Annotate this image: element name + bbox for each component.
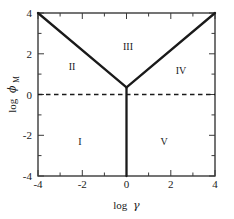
region-label-v: V	[160, 136, 168, 147]
y-axis-title-prefix: log	[6, 98, 18, 113]
region-label-ii: II	[69, 61, 76, 72]
x-tick-label-0: 0	[124, 178, 130, 190]
region-label-i: I	[78, 136, 81, 147]
y-tick-label-0: 0	[27, 89, 33, 101]
svg-text:log γ: log γ	[113, 199, 140, 212]
x-tick-label-4: 4	[212, 178, 218, 190]
x-tick-label-neg4: -4	[33, 178, 43, 190]
y-tick-label-neg4: -4	[23, 170, 33, 182]
y-axis-title-symbol: ϕ	[6, 85, 19, 93]
x-axis-title: log γ	[113, 199, 140, 212]
y-tick-label-2: 2	[27, 48, 33, 60]
y-axis-title: log ϕ M	[6, 76, 21, 113]
x-tick-label-2: 2	[168, 178, 174, 190]
x-axis-title-symbol: γ	[133, 199, 140, 212]
x-axis-title-prefix: log	[113, 199, 128, 211]
chart-figure: -4 -2 0 2 4 4 2 0 -2 -4 I II III IV V lo…	[0, 0, 234, 219]
svg-text:log ϕ M: log ϕ M	[6, 76, 21, 113]
y-axis-title-subscript: M	[12, 76, 21, 83]
y-tick-label-neg2: -2	[23, 129, 32, 141]
x-tick-label-neg2: -2	[78, 178, 87, 190]
phase-diagram-plot: -4 -2 0 2 4 4 2 0 -2 -4 I II III IV V lo…	[0, 0, 234, 219]
region-label-iv: IV	[176, 65, 187, 76]
y-tick-label-4: 4	[27, 7, 33, 19]
region-label-iii: III	[123, 41, 133, 52]
